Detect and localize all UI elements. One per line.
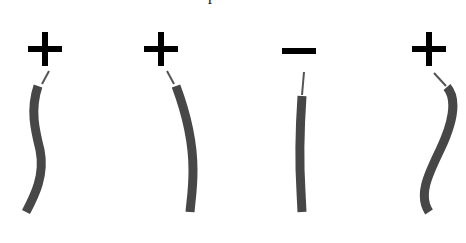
insulated-wire bbox=[26, 86, 41, 212]
wire-lead bbox=[167, 71, 174, 84]
wire-item-4-positive bbox=[412, 32, 453, 212]
wire-item-2-positive bbox=[144, 32, 193, 212]
plus-sign-icon bbox=[144, 32, 178, 66]
wire-lead bbox=[302, 72, 304, 95]
wire-lead bbox=[434, 73, 446, 86]
wire-item-1-positive bbox=[26, 32, 62, 212]
wire-item-3-negative bbox=[282, 48, 316, 212]
wire-lead bbox=[42, 71, 49, 84]
insulated-wire bbox=[176, 86, 193, 212]
plus-sign-icon bbox=[412, 32, 446, 66]
minus-sign-icon bbox=[282, 48, 316, 54]
insulated-wire bbox=[300, 96, 302, 212]
insulated-wire bbox=[424, 87, 453, 212]
polarity-wire-diagram bbox=[0, 0, 466, 243]
plus-sign-icon bbox=[28, 32, 62, 66]
